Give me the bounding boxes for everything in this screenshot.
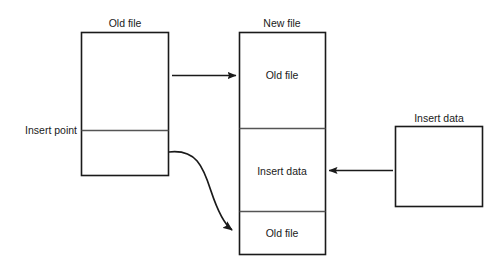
new-file-title: New file — [263, 18, 300, 29]
insert-data-box — [396, 127, 483, 207]
new-file-segment-top-label: Old file — [266, 70, 299, 81]
curved-arrow-old-tail-to-new-bottom — [169, 152, 232, 230]
new-file-box — [240, 33, 326, 255]
diagram-shapes-layer — [0, 0, 502, 272]
old-file-box — [82, 33, 169, 176]
insert-data-title: Insert data — [414, 113, 464, 124]
new-file-segment-bottom-label: Old file — [266, 228, 299, 239]
old-file-title: Old file — [109, 18, 142, 29]
insert-point-label: Insert point — [25, 125, 77, 136]
file-insert-diagram: Old file New file Insert data Insert poi… — [0, 0, 502, 272]
new-file-segment-middle-label: Insert data — [257, 166, 307, 177]
